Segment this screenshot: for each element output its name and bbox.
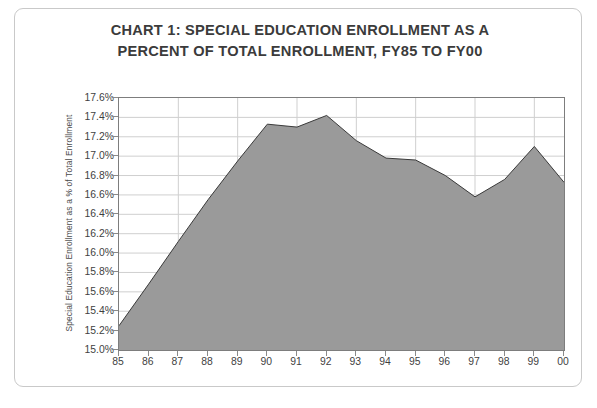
y-axis-tick-label: 17.0%: [70, 150, 114, 161]
y-axis-tick-labels: 17.6%17.4%17.2%17.0%16.8%16.6%16.4%16.2%…: [66, 0, 114, 408]
x-axis-tick-label: 91: [281, 356, 311, 367]
x-axis-tick-label: 95: [400, 356, 430, 367]
x-axis-tick-label: 88: [192, 356, 222, 367]
x-axis-tick-label: 93: [340, 356, 370, 367]
y-axis-tick-label: 15.8%: [70, 266, 114, 277]
x-axis-tick-label: 96: [429, 356, 459, 367]
x-axis-tick-label: 94: [370, 356, 400, 367]
y-axis-tick-label: 16.2%: [70, 227, 114, 238]
y-axis-tick-label: 17.2%: [70, 130, 114, 141]
x-axis-tick-label: 90: [251, 356, 281, 367]
y-axis-tick-label: 15.6%: [70, 285, 114, 296]
y-axis-tick-label: 15.0%: [70, 344, 114, 355]
area-chart-svg: [119, 98, 564, 350]
x-axis-tick-labels: 85868788899091929394959697989900: [118, 356, 565, 376]
y-axis-tick-label: 17.6%: [70, 92, 114, 103]
x-axis-tick-label: 00: [548, 356, 578, 367]
y-axis-tick-label: 16.0%: [70, 247, 114, 258]
y-axis-tick-label: 16.6%: [70, 188, 114, 199]
x-axis-tick-label: 92: [311, 356, 341, 367]
y-axis-tick-label: 16.8%: [70, 169, 114, 180]
y-axis-tick-label: 15.2%: [70, 324, 114, 335]
x-axis-tick-label: 98: [489, 356, 519, 367]
x-axis-tick-label: 89: [222, 356, 252, 367]
x-axis-tick-label: 85: [103, 356, 133, 367]
y-axis-tick-label: 16.4%: [70, 208, 114, 219]
y-axis-tick-label: 15.4%: [70, 305, 114, 316]
x-axis-tick-label: 86: [133, 356, 163, 367]
x-axis-tick-label: 99: [518, 356, 548, 367]
y-axis-tick-label: 17.4%: [70, 111, 114, 122]
x-axis-tick-label: 97: [459, 356, 489, 367]
x-axis-tick-label: 87: [162, 356, 192, 367]
area-series-fill: [119, 115, 564, 350]
plot-area: [118, 97, 565, 351]
chart-figure: CHART 1: SPECIAL EDUCATION ENROLLMENT AS…: [0, 0, 597, 408]
